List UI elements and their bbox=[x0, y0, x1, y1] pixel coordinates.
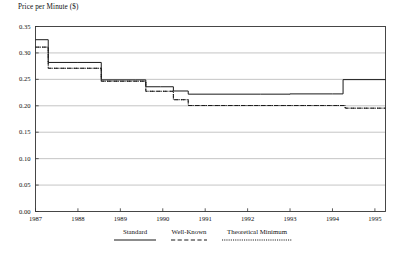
chart-legend: StandardWell-KnownTheoretical Minimum bbox=[0, 228, 406, 242]
y-tick-label: 0.35 bbox=[9, 23, 31, 30]
y-tick-label: 0.25 bbox=[9, 75, 31, 82]
chart-container: Price per Minute ($) 0.000.050.100.150.2… bbox=[0, 0, 406, 254]
x-tick-label: 1991 bbox=[190, 215, 220, 222]
series-line-well-known bbox=[36, 47, 386, 108]
y-tick-label: 0.00 bbox=[9, 208, 31, 215]
legend-swatch-dashed bbox=[169, 238, 209, 242]
x-tick-label: 1992 bbox=[233, 215, 263, 222]
series-line-theoretical-minimum bbox=[36, 47, 386, 108]
x-tick-label: 1990 bbox=[148, 215, 178, 222]
y-tick-label: 0.10 bbox=[9, 155, 31, 162]
legend-entry: Theoretical Minimum bbox=[220, 228, 294, 242]
x-tick-label: 1987 bbox=[21, 215, 51, 222]
x-tick-label: 1993 bbox=[275, 215, 305, 222]
legend-label: Well-Known bbox=[172, 228, 207, 235]
y-tick-label: 0.20 bbox=[9, 102, 31, 109]
y-tick-label: 0.15 bbox=[9, 128, 31, 135]
y-tick-label: 0.30 bbox=[9, 49, 31, 56]
x-tick-label: 1994 bbox=[317, 215, 347, 222]
legend-swatch-dotted bbox=[220, 238, 294, 242]
legend-entry: Well-Known bbox=[169, 228, 209, 242]
plot-frame bbox=[36, 27, 386, 212]
legend-label: Standard bbox=[123, 228, 147, 235]
y-tick-label: 0.05 bbox=[9, 181, 31, 188]
x-tick-label: 1989 bbox=[105, 215, 135, 222]
legend-label: Theoretical Minimum bbox=[227, 228, 287, 235]
x-tick-label: 1995 bbox=[360, 215, 390, 222]
series-line-standard bbox=[36, 40, 386, 94]
legend-entry: Standard bbox=[112, 228, 158, 242]
x-tick-label: 1988 bbox=[63, 215, 93, 222]
legend-swatch-solid bbox=[112, 238, 158, 242]
